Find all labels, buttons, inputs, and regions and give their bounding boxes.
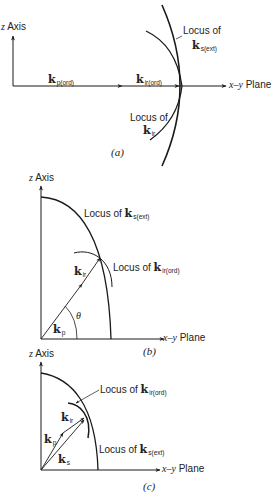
locus-kir-symbol-a: kir [143, 125, 155, 138]
locus-ks-ext-label-c: Locus of ks(ext) [99, 444, 164, 457]
vector-label-kir-b: kir [74, 266, 86, 279]
vector-label-kp-ord: kp(ord) [48, 74, 74, 87]
theta-label: θ [76, 311, 81, 321]
vector-label-kp-c: kp [44, 434, 56, 447]
z-axis-label-b: z Axis [29, 173, 54, 183]
locus-ks-ext-label-a: Locus of [183, 26, 221, 36]
locus-ks-ext-symbol-a: ks(ext) [192, 40, 217, 53]
plane-label-c: x–y Plane [162, 464, 204, 474]
panel-caption-a: (a) [111, 147, 124, 158]
vector-label-kp-b: kp [53, 324, 65, 337]
locus-kir-label-a: Locus of [130, 113, 168, 123]
plane-label-a: x–y Plane [229, 80, 271, 90]
panel-caption-b: (b) [143, 346, 156, 357]
plane-label-b: x–y Plane [163, 333, 205, 343]
z-axis-label-c: z Axis [29, 349, 54, 359]
locus-ks-ext-label-b: Locus of ks(ext) [84, 208, 149, 221]
vector-label-ks-c: ks [58, 454, 70, 467]
locus-kir-ord-label-b: Locus of kir(ord) [113, 262, 180, 275]
panel-caption-c: (c) [143, 481, 155, 492]
vector-label-kir-c: kir [61, 412, 73, 425]
z-axis-label-a: z Axis [1, 22, 26, 32]
vector-label-kir-ord: kir(ord) [136, 74, 162, 87]
locus-ks-pointer-a [176, 36, 182, 39]
locus-kir-ord-label-c: Locus of kir(ord) [100, 384, 167, 397]
